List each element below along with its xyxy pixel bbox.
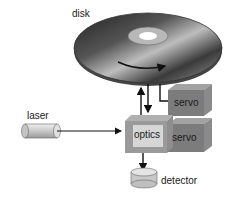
laser-label: laser bbox=[27, 110, 49, 121]
servo-bottom-label: servo bbox=[172, 132, 196, 143]
laser-emitter bbox=[22, 124, 61, 138]
disk bbox=[74, 13, 222, 86]
servo-top-label: servo bbox=[174, 97, 198, 108]
servo-link bbox=[160, 84, 168, 101]
optical-drive-diagram bbox=[0, 0, 235, 203]
detector bbox=[131, 168, 157, 188]
disk-label: disk bbox=[72, 8, 90, 19]
optics-label: optics bbox=[134, 129, 160, 140]
detector-label: detector bbox=[161, 175, 197, 186]
